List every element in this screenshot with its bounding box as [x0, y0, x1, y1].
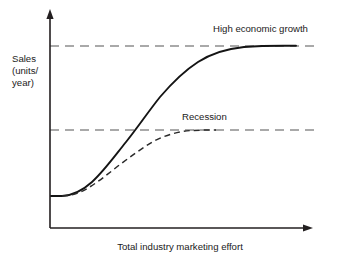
annotation-recession: Recession	[182, 111, 227, 122]
annotation-high-economic-growth: High economic growth	[213, 23, 308, 34]
y-axis-label-line-1: Sales	[12, 53, 36, 64]
sales-response-chart: High economic growth Recession Sales (un…	[0, 0, 345, 262]
y-axis-label-line-2: (units/	[12, 65, 38, 76]
y-axis-label-line-3: year)	[12, 77, 34, 88]
x-axis-caption: Total industry marketing effort	[117, 241, 243, 252]
chart-background	[0, 0, 345, 262]
